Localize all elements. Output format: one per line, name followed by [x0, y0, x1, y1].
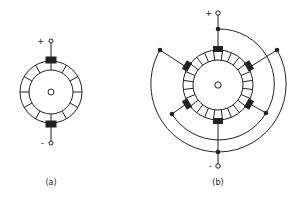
junction-bottom	[216, 150, 221, 155]
segment-divider	[190, 100, 198, 106]
label-b: (b)	[212, 178, 223, 187]
brush-top-b	[213, 46, 223, 52]
segment-divider	[205, 108, 209, 117]
spoke-lower-left	[172, 104, 186, 114]
segment-divider	[70, 77, 78, 82]
brush-top	[46, 57, 56, 63]
segment-divider	[186, 95, 195, 99]
brush-lower-right-b	[244, 98, 254, 110]
segment-divider	[186, 72, 195, 76]
segment-divider	[183, 88, 193, 89]
segment-divider	[62, 65, 67, 73]
segment-divider	[241, 95, 250, 99]
panel-b	[151, 11, 286, 168]
segment-divider	[190, 64, 198, 70]
armature-diagram: + - (a)	[0, 0, 299, 199]
segment-divider	[243, 80, 253, 81]
connection-arc-inner-bottom	[172, 113, 266, 140]
positive-terminal-b	[216, 11, 220, 15]
brush-upper-right-b	[244, 60, 254, 72]
junction-lower-left	[170, 112, 175, 117]
segment-divider	[70, 103, 78, 108]
negative-terminal-b	[216, 164, 220, 168]
junction-top	[216, 27, 221, 32]
junction-upper-right	[275, 48, 280, 53]
brush-bottom-b	[213, 118, 223, 124]
segment-divider	[233, 105, 239, 113]
segment-divider	[24, 77, 32, 82]
segment-divider	[205, 53, 209, 62]
spoke-upper-left	[160, 50, 186, 67]
brush-upper-left-b	[182, 60, 192, 72]
segment-divider	[238, 64, 246, 70]
label-a: (a)	[45, 178, 56, 187]
segment-divider	[36, 111, 41, 119]
segment-divider	[228, 53, 232, 62]
segment-divider	[197, 57, 203, 65]
positive-terminal	[49, 39, 53, 43]
junction-upper-left	[158, 48, 163, 53]
plus-sign-b: +	[205, 9, 212, 18]
segment-divider	[197, 105, 203, 113]
brush-bottom	[46, 121, 56, 127]
minus-sign-b: -	[209, 162, 212, 171]
plus-sign-a: +	[37, 37, 44, 46]
connection-arc-top-right	[218, 29, 274, 113]
segment-divider	[62, 111, 67, 119]
shaft-icon-b	[215, 82, 221, 88]
spoke-lower-right	[250, 104, 266, 113]
brush-lower-left-b	[182, 98, 192, 110]
panel-a	[20, 39, 82, 145]
shaft-icon	[48, 89, 54, 95]
negative-terminal	[49, 141, 53, 145]
segment-divider	[243, 88, 253, 89]
junction-lower-right	[264, 111, 269, 116]
segment-divider	[183, 80, 193, 81]
segment-divider	[241, 72, 250, 76]
minus-sign-a: -	[41, 139, 44, 148]
segment-divider	[238, 100, 246, 106]
segment-divider	[228, 108, 232, 117]
segment-divider	[233, 57, 239, 65]
segment-divider	[36, 65, 41, 73]
spoke-upper-right	[250, 50, 277, 67]
segment-divider	[24, 103, 32, 108]
